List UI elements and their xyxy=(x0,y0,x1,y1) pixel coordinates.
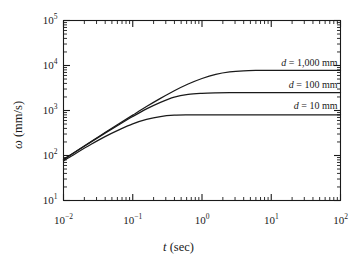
y-tick-label: 102 xyxy=(43,150,58,161)
x-tick-label: 10−2 xyxy=(24,215,104,226)
y-tick-label: 101 xyxy=(43,195,58,206)
x-tick-label: 102 xyxy=(301,215,357,226)
x-tick-label: 101 xyxy=(231,215,311,226)
x-axis-title: t (sec) xyxy=(0,241,357,254)
chart-canvas xyxy=(0,0,357,269)
series-label-d-10mm: d = 10 mm xyxy=(0,101,338,111)
figure: 101 102 103 104 105 10−2 10−1 100 101 10… xyxy=(0,0,357,269)
x-tick-label: 100 xyxy=(162,215,242,226)
y-tick-label: 105 xyxy=(43,15,58,26)
x-tick-label: 10−1 xyxy=(93,215,173,226)
series-label-d-1000mm: d = 1,000 mm xyxy=(0,58,338,68)
chart-background xyxy=(0,0,357,269)
series-label-d-100mm: d = 100 mm xyxy=(0,80,338,90)
